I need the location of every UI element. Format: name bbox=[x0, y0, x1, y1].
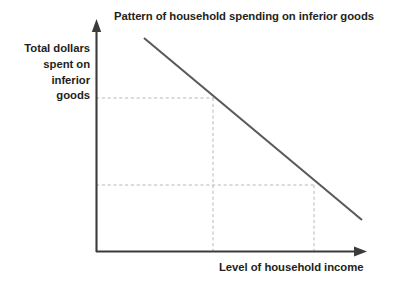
y-axis-label: Total dollars spent on inferior goods bbox=[0, 41, 90, 104]
y-axis-label-line-4: goods bbox=[0, 88, 90, 104]
x-axis-arrowhead-icon bbox=[354, 247, 367, 257]
chart-figure: Pattern of household spending on inferio… bbox=[0, 0, 407, 281]
y-axis-label-line-3: inferior bbox=[0, 73, 90, 89]
y-axis-label-line-2: spent on bbox=[0, 57, 90, 73]
chart-title: Pattern of household spending on inferio… bbox=[114, 9, 406, 23]
y-axis-label-line-1: Total dollars bbox=[0, 41, 90, 57]
x-axis-label: Level of household income bbox=[219, 260, 363, 274]
y-axis-arrowhead-icon bbox=[92, 19, 101, 32]
spending-curve bbox=[144, 38, 362, 220]
